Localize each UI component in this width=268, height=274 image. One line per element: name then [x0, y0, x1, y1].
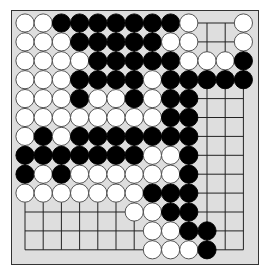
empty-intersection[interactable]: [53, 242, 69, 258]
empty-intersection[interactable]: [199, 147, 215, 163]
white-stone[interactable]: [107, 108, 125, 126]
black-stone[interactable]: [107, 146, 125, 164]
black-stone[interactable]: [180, 71, 198, 89]
empty-intersection[interactable]: [217, 34, 233, 50]
empty-intersection[interactable]: [199, 15, 215, 31]
white-stone[interactable]: [16, 33, 34, 51]
empty-intersection[interactable]: [72, 223, 88, 239]
black-stone[interactable]: [162, 90, 180, 108]
black-stone[interactable]: [143, 52, 161, 70]
black-stone[interactable]: [180, 184, 198, 202]
black-stone[interactable]: [180, 108, 198, 126]
empty-intersection[interactable]: [90, 242, 106, 258]
empty-intersection[interactable]: [17, 204, 33, 220]
white-stone[interactable]: [234, 33, 252, 51]
empty-intersection[interactable]: [235, 242, 251, 258]
black-stone[interactable]: [162, 14, 180, 32]
empty-intersection[interactable]: [199, 110, 215, 126]
white-stone[interactable]: [52, 52, 70, 70]
white-stone[interactable]: [52, 90, 70, 108]
white-stone[interactable]: [34, 108, 52, 126]
empty-intersection[interactable]: [126, 223, 142, 239]
black-stone[interactable]: [143, 33, 161, 51]
black-stone[interactable]: [71, 146, 89, 164]
black-stone[interactable]: [162, 184, 180, 202]
white-stone[interactable]: [52, 108, 70, 126]
empty-intersection[interactable]: [108, 242, 124, 258]
empty-intersection[interactable]: [53, 223, 69, 239]
white-stone[interactable]: [180, 14, 198, 32]
black-stone[interactable]: [180, 127, 198, 145]
empty-intersection[interactable]: [217, 185, 233, 201]
black-stone[interactable]: [180, 146, 198, 164]
empty-intersection[interactable]: [199, 34, 215, 50]
white-stone[interactable]: [234, 14, 252, 32]
white-stone[interactable]: [143, 203, 161, 221]
white-stone[interactable]: [52, 71, 70, 89]
empty-intersection[interactable]: [199, 166, 215, 182]
black-stone[interactable]: [71, 33, 89, 51]
white-stone[interactable]: [125, 108, 143, 126]
empty-intersection[interactable]: [235, 110, 251, 126]
white-stone[interactable]: [180, 33, 198, 51]
black-stone[interactable]: [89, 14, 107, 32]
black-stone[interactable]: [107, 127, 125, 145]
black-stone[interactable]: [180, 165, 198, 183]
white-stone[interactable]: [107, 184, 125, 202]
white-stone[interactable]: [162, 241, 180, 259]
empty-intersection[interactable]: [90, 204, 106, 220]
white-stone[interactable]: [143, 146, 161, 164]
black-stone[interactable]: [125, 52, 143, 70]
empty-intersection[interactable]: [217, 204, 233, 220]
white-stone[interactable]: [162, 33, 180, 51]
empty-intersection[interactable]: [217, 147, 233, 163]
black-stone[interactable]: [34, 146, 52, 164]
white-stone[interactable]: [16, 127, 34, 145]
white-stone[interactable]: [180, 52, 198, 70]
white-stone[interactable]: [89, 165, 107, 183]
black-stone[interactable]: [52, 14, 70, 32]
black-stone[interactable]: [89, 71, 107, 89]
white-stone[interactable]: [16, 90, 34, 108]
black-stone[interactable]: [71, 71, 89, 89]
white-stone[interactable]: [71, 184, 89, 202]
empty-intersection[interactable]: [90, 223, 106, 239]
empty-intersection[interactable]: [35, 204, 51, 220]
black-stone[interactable]: [180, 90, 198, 108]
white-stone[interactable]: [89, 108, 107, 126]
black-stone[interactable]: [71, 90, 89, 108]
white-stone[interactable]: [34, 33, 52, 51]
black-stone[interactable]: [52, 165, 70, 183]
black-stone[interactable]: [107, 33, 125, 51]
white-stone[interactable]: [162, 222, 180, 240]
empty-intersection[interactable]: [199, 185, 215, 201]
white-stone[interactable]: [180, 241, 198, 259]
empty-intersection[interactable]: [72, 204, 88, 220]
black-stone[interactable]: [162, 52, 180, 70]
empty-intersection[interactable]: [235, 204, 251, 220]
board-grid[interactable]: [1, 1, 268, 274]
white-stone[interactable]: [125, 165, 143, 183]
white-stone[interactable]: [162, 165, 180, 183]
empty-intersection[interactable]: [108, 204, 124, 220]
empty-intersection[interactable]: [217, 223, 233, 239]
white-stone[interactable]: [71, 165, 89, 183]
black-stone[interactable]: [234, 52, 252, 70]
empty-intersection[interactable]: [35, 242, 51, 258]
white-stone[interactable]: [125, 203, 143, 221]
empty-intersection[interactable]: [235, 185, 251, 201]
empty-intersection[interactable]: [235, 128, 251, 144]
black-stone[interactable]: [143, 127, 161, 145]
black-stone[interactable]: [71, 127, 89, 145]
white-stone[interactable]: [162, 146, 180, 164]
black-stone[interactable]: [125, 14, 143, 32]
white-stone[interactable]: [16, 52, 34, 70]
empty-intersection[interactable]: [199, 91, 215, 107]
black-stone[interactable]: [107, 14, 125, 32]
white-stone[interactable]: [16, 14, 34, 32]
empty-intersection[interactable]: [17, 242, 33, 258]
black-stone[interactable]: [107, 71, 125, 89]
empty-intersection[interactable]: [35, 223, 51, 239]
black-stone[interactable]: [125, 33, 143, 51]
empty-intersection[interactable]: [235, 91, 251, 107]
